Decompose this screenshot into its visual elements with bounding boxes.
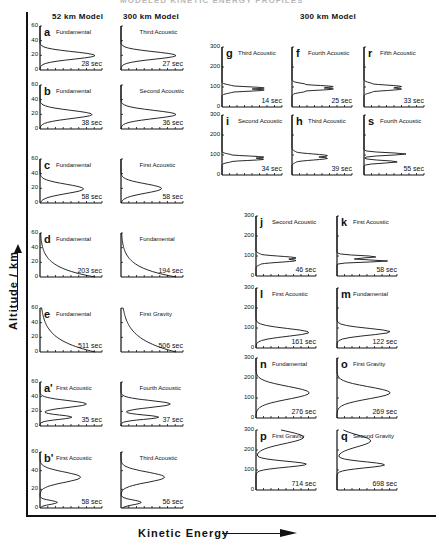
mode-label: Second Acoustic <box>140 88 184 95</box>
y-axis-label: Altitude / km <box>7 251 19 330</box>
y-tick-label: 20 <box>24 485 38 491</box>
y-tick-label: 0 <box>24 199 38 205</box>
chart-panel-d-300: Fundamental194 sec <box>121 233 183 277</box>
y-tick-label: 0 <box>24 504 38 510</box>
y-tick-label: 0 <box>206 103 220 109</box>
period-label: 25 sec <box>331 97 352 104</box>
y-tick-label: 200 <box>206 63 220 69</box>
period-label: 55 sec <box>403 165 424 172</box>
y-tick-label: 0 <box>24 273 38 279</box>
chart-panel-p: pFirst Gravity714 sec0100200300 <box>256 430 316 490</box>
period-label: 46 sec <box>295 266 316 273</box>
mode-label: First Acoustic <box>272 291 308 298</box>
y-tick-label: 0 <box>24 125 38 131</box>
y-tick-label: 0 <box>24 348 38 354</box>
period-label: 698 sec <box>372 480 397 487</box>
panel-letter: h <box>296 116 303 127</box>
mode-label: First Acoustic <box>56 455 92 462</box>
y-tick-label: 60 <box>24 81 38 87</box>
y-tick-label: 60 <box>24 448 38 454</box>
period-label: 58 sec <box>376 266 397 273</box>
panel-letter: q <box>341 431 348 442</box>
panel-letter: m <box>341 289 351 300</box>
chart-panel-o: oFirst Gravity269 sec <box>337 358 397 418</box>
period-label: 34 sec <box>261 165 282 172</box>
mode-label: Fundamental <box>56 29 91 36</box>
y-tick-label: 0 <box>240 344 254 350</box>
y-tick-label: 40 <box>24 170 38 176</box>
mode-label: Fundamental <box>353 291 388 298</box>
chart-panel-k: kFirst Acoustic58 sec <box>337 216 397 276</box>
y-tick-label: 200 <box>240 304 254 310</box>
y-tick-label: 300 <box>240 354 254 360</box>
period-label: 14 sec <box>261 97 282 104</box>
y-tick-label: 200 <box>240 374 254 380</box>
panel-letter: i <box>226 116 229 127</box>
period-label: 27 sec <box>162 60 183 67</box>
y-tick-label: 20 <box>24 407 38 413</box>
period-label: 33 sec <box>403 97 424 104</box>
chart-panel-b-300: Second Acoustic36 sec <box>121 85 183 129</box>
chart-panel-d-52: dFundamental203 sec0204060 <box>40 233 102 277</box>
y-tick-label: 0 <box>240 272 254 278</box>
mode-label: Second Gravity <box>353 433 394 440</box>
mode-label: Second Acoustic <box>238 118 282 125</box>
mode-label: First Gravity <box>272 433 304 440</box>
mode-label: Fundamental <box>56 236 91 243</box>
y-tick-label: 100 <box>240 466 254 472</box>
period-label: 58 sec <box>81 498 102 505</box>
y-tick-label: 20 <box>24 51 38 57</box>
panel-letter: p <box>260 431 267 442</box>
period-label: 28 sec <box>81 60 102 67</box>
period-label: 506 sec <box>158 342 183 349</box>
y-tick-label: 100 <box>206 83 220 89</box>
y-tick-label: 200 <box>240 232 254 238</box>
period-label: 276 sec <box>291 408 316 415</box>
period-label: 58 sec <box>81 193 102 200</box>
y-tick-label: 0 <box>24 422 38 428</box>
mode-label: Fundamental <box>140 236 175 243</box>
period-label: 35 sec <box>81 416 102 423</box>
y-tick-label: 0 <box>24 66 38 72</box>
mode-label: First Acoustic <box>140 162 176 169</box>
period-label: 56 sec <box>162 498 183 505</box>
x-axis-arrow-icon <box>280 529 297 537</box>
y-tick-label: 20 <box>24 258 38 264</box>
chart-panel-a2-52: a'First Acoustic35 sec0204060 <box>40 382 102 426</box>
panel-letter: r <box>368 48 372 59</box>
y-tick-label: 60 <box>24 155 38 161</box>
outer-frame-bottom <box>26 515 436 517</box>
column-header-52km: 52 km Model <box>52 12 103 21</box>
mode-label: Second Acoustic <box>272 219 316 226</box>
x-axis-label: Kinetic Energy <box>138 527 229 539</box>
y-tick-label: 200 <box>206 131 220 137</box>
y-tick-label: 20 <box>24 110 38 116</box>
panel-letter: j <box>260 217 263 228</box>
mode-label: Third Acoustic <box>140 455 178 462</box>
period-label: 203 sec <box>77 267 102 274</box>
chart-panel-a-52: aFundamental28 sec0204060 <box>40 26 102 70</box>
x-axis-arrow-shaft <box>222 533 284 534</box>
period-label: 161 sec <box>291 338 316 345</box>
period-label: 36 sec <box>162 119 183 126</box>
panel-letter: b' <box>44 453 53 464</box>
period-label: 122 sec <box>372 338 397 345</box>
y-tick-label: 100 <box>240 252 254 258</box>
mode-label: Fifth Acoustic <box>380 50 416 57</box>
period-label: 269 sec <box>372 408 397 415</box>
period-label: 58 sec <box>162 193 183 200</box>
chart-panel-g: gThird Acoustic14 sec0100200300 <box>222 47 282 107</box>
panel-letter: o <box>341 359 348 370</box>
chart-panel-e-300: First Gravity506 sec <box>121 308 183 352</box>
chart-panel-a2-300: Fourth Acoustic37 sec <box>121 382 183 426</box>
y-tick-label: 40 <box>24 37 38 43</box>
y-tick-label: 40 <box>24 467 38 473</box>
y-tick-label: 0 <box>240 414 254 420</box>
chart-panel-q: qSecond Gravity698 sec <box>337 430 397 490</box>
panel-letter: b <box>44 86 51 97</box>
y-tick-label: 60 <box>24 22 38 28</box>
y-tick-label: 300 <box>240 284 254 290</box>
chart-panel-i: iSecond Acoustic34 sec0100200300 <box>222 115 282 175</box>
panel-letter: a <box>44 27 50 38</box>
mode-label: Third Acoustic <box>140 29 178 36</box>
